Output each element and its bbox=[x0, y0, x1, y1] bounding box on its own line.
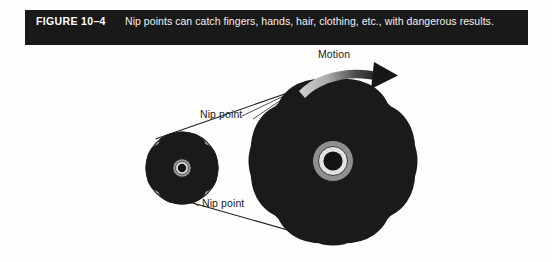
small-pulley bbox=[146, 132, 218, 204]
nip-marker-top bbox=[289, 92, 292, 95]
figure-caption-text: Nip points can catch fingers, hands, hai… bbox=[122, 15, 520, 28]
pulley-diagram-svg bbox=[0, 40, 552, 262]
pulley-diagram: Motion Nip point Nip point bbox=[0, 40, 552, 262]
large-pulley bbox=[254, 82, 412, 240]
figure-container: FIGURE 10–4 Nip points can catch fingers… bbox=[0, 0, 552, 262]
nip-point-label-top: Nip point bbox=[200, 108, 242, 120]
figure-number-label: FIGURE 10–4 bbox=[36, 15, 122, 28]
nip-marker-bottom bbox=[190, 201, 193, 204]
motion-label: Motion bbox=[318, 48, 350, 60]
nip-point-label-bottom: Nip point bbox=[202, 197, 244, 209]
